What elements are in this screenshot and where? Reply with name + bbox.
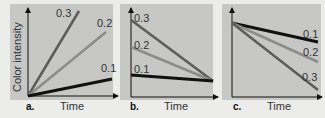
x-axis-title: Time — [267, 100, 291, 112]
panel-tag: c. — [233, 101, 242, 112]
series-label: 0.3 — [134, 12, 149, 24]
figure-canvas: 0.3 0.2 0.1 Color intensity a. Time 0.3 … — [0, 0, 325, 118]
y-axis-title: Color intensity — [11, 22, 23, 92]
series-label: 0.1 — [101, 62, 116, 74]
series-label: 0.2 — [303, 46, 318, 58]
panel-tag: b. — [130, 101, 139, 112]
x-axis-title: Time — [164, 100, 188, 112]
panel-c: 0.1 0.2 0.3 c. Time — [222, 4, 322, 112]
series-label: 0.2 — [97, 17, 112, 29]
series-label: 0.3 — [302, 71, 317, 83]
series-label: 0.1 — [134, 63, 149, 75]
series-label: 0.3 — [56, 7, 71, 19]
panel-a: 0.3 0.2 0.1 Color intensity a. Time — [10, 4, 118, 112]
x-axis-title: Time — [60, 100, 84, 112]
panel-b: 0.3 0.2 0.1 b. Time — [120, 4, 218, 112]
series-label: 0.1 — [303, 28, 318, 40]
series-label: 0.2 — [134, 39, 149, 51]
panel-tag: a. — [26, 101, 35, 112]
